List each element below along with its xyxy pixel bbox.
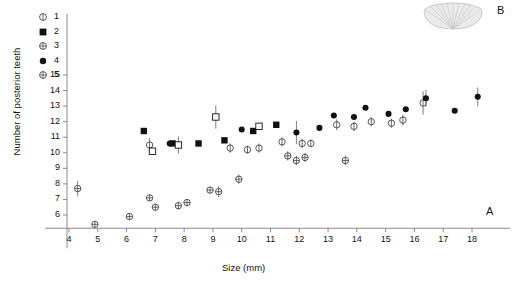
y-axis-tick-label: 11 xyxy=(38,131,60,141)
x-axis-tick-label: 4 xyxy=(59,234,79,244)
y-axis-tick-label: 8 xyxy=(38,178,60,188)
series-1 xyxy=(146,91,426,153)
x-axis-tick-label: 17 xyxy=(433,234,453,244)
x-axis-tick-label: 8 xyxy=(174,234,194,244)
y-axis-tick-label: 9 xyxy=(38,162,60,172)
x-axis-tick-label: 9 xyxy=(203,234,223,244)
x-axis-tick-label: 10 xyxy=(232,234,252,244)
x-axis-tick-label: 15 xyxy=(376,234,396,244)
x-axis-tick-label: 14 xyxy=(347,234,367,244)
x-axis-tick-label: 7 xyxy=(145,234,165,244)
scatter-plot-figure: B A 12345 Number of posterior teeth Size… xyxy=(0,0,520,281)
x-axis-tick-label: 11 xyxy=(261,234,281,244)
x-axis-tick-label: 13 xyxy=(318,234,338,244)
x-axis-tick-label: 5 xyxy=(88,234,108,244)
y-axis-tick-label: 6 xyxy=(38,209,60,219)
y-axis-tick-label: 10 xyxy=(38,147,60,157)
y-axis-tick-label: 7 xyxy=(38,193,60,203)
y-axis-label: Number of posterior teeth xyxy=(11,42,22,162)
x-axis-label: Size (mm) xyxy=(222,262,265,273)
y-axis-tick-label: 15 xyxy=(38,69,60,79)
x-axis-tick-label: 12 xyxy=(289,234,309,244)
x-axis-tick-label: 18 xyxy=(462,234,482,244)
x-axis-tick-label: 16 xyxy=(404,234,424,244)
series-5 xyxy=(74,151,348,227)
y-axis-tick-label: 13 xyxy=(38,100,60,110)
x-axis-tick-label: 6 xyxy=(117,234,137,244)
y-axis-tick-label: 12 xyxy=(38,116,60,126)
y-axis-tick-label: 14 xyxy=(38,85,60,95)
